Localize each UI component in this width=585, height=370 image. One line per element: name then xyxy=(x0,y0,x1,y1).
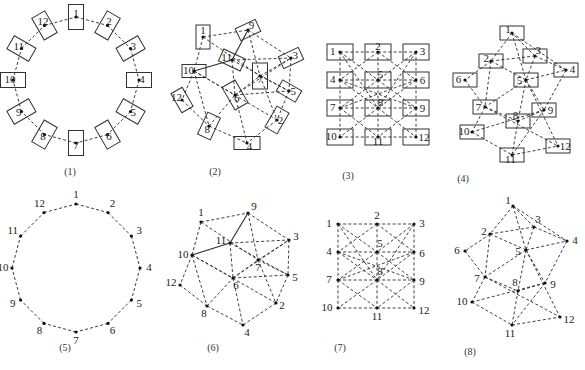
p2-node-label-2: 2 xyxy=(278,114,284,126)
p8-edge-8-11 xyxy=(512,291,518,325)
p3-node-label-9: 9 xyxy=(420,102,426,114)
p2-node-label-8: 8 xyxy=(204,123,210,135)
p4-node-label-5: 5 xyxy=(517,74,523,86)
p8-node-label-1: 1 xyxy=(505,194,511,206)
p8-node-label-11: 11 xyxy=(505,327,516,339)
p1-node-label-1: 1 xyxy=(73,7,79,19)
p7-node-label-2: 2 xyxy=(374,209,380,221)
p1-node-label-5: 5 xyxy=(130,106,136,118)
p8-node-label-5: 5 xyxy=(515,245,521,257)
p1-node-label-8: 8 xyxy=(40,130,46,142)
p5-node-label-8: 8 xyxy=(37,324,43,336)
p7-node-dot-2 xyxy=(375,222,378,225)
p7-node-label-6: 6 xyxy=(419,247,425,259)
p2-node-label-4: 4 xyxy=(247,140,253,152)
p6-edge-7-5 xyxy=(258,260,288,275)
p7-node-dot-12 xyxy=(412,306,415,309)
p8-edge-3-5 xyxy=(526,227,534,250)
p5-node-label-3: 3 xyxy=(136,224,142,236)
p8-node-label-10: 10 xyxy=(457,295,469,307)
p6-edge-11-3 xyxy=(230,240,289,243)
p7-node-label-10: 10 xyxy=(322,301,334,313)
p5-node-dot-2 xyxy=(106,211,109,214)
p4-node-dot-7 xyxy=(483,105,486,108)
p5-node-dot-11 xyxy=(19,234,22,237)
p3-node-dot-3 xyxy=(414,50,417,53)
p8-node-dot-12 xyxy=(558,315,561,318)
p6-node-label-1: 1 xyxy=(198,206,204,218)
p7-node-label-5: 5 xyxy=(377,237,383,249)
p3-node-label-11: 11 xyxy=(373,135,384,147)
p1-node-label-12: 12 xyxy=(38,15,49,27)
p5-edge-7-8 xyxy=(44,323,76,332)
p4-node-label-6: 6 xyxy=(456,73,462,85)
p1-node-label-6: 6 xyxy=(106,130,112,142)
p6-node-dot-12 xyxy=(178,283,181,286)
panel-label-p2: (2) xyxy=(209,166,221,178)
p5-node-dot-5 xyxy=(130,298,133,301)
p3-node-label-1: 1 xyxy=(330,45,336,57)
p6-edge-6-7 xyxy=(233,260,258,278)
p6-edge-7-3 xyxy=(258,240,289,260)
p6-edge-9-7 xyxy=(248,213,258,260)
p8-node-dot-7 xyxy=(483,275,486,278)
p8-edge-3-4 xyxy=(534,227,567,241)
p8-node-dot-8 xyxy=(516,289,519,292)
p7-node-label-12: 12 xyxy=(419,304,430,316)
p1-node-label-11: 11 xyxy=(14,40,25,52)
p2-node-label-9: 9 xyxy=(249,19,255,31)
p6-node-dot-5 xyxy=(286,273,289,276)
p4-node-label-12: 12 xyxy=(560,140,571,152)
p4-node-dot-2 xyxy=(489,59,492,62)
p5-node-label-9: 9 xyxy=(10,297,16,309)
p3-node-dot-7 xyxy=(338,106,341,109)
panel-label-p1: (1) xyxy=(64,166,76,178)
p6-edge-8-4 xyxy=(207,306,243,325)
p5-edge-11-12 xyxy=(21,213,44,236)
p6-node-label-6: 6 xyxy=(233,279,239,291)
panel-label-p6: (6) xyxy=(207,342,219,354)
p8-edge-5-4 xyxy=(526,241,567,250)
p4-node-label-7: 7 xyxy=(476,101,482,113)
p2-node-label-6: 6 xyxy=(234,92,240,104)
p4-node-label-9: 9 xyxy=(548,104,554,116)
p5-edge-1-2 xyxy=(76,204,108,213)
p3-node-label-6: 6 xyxy=(420,74,426,86)
p5-edge-3-4 xyxy=(131,236,140,268)
p4-node-label-8: 8 xyxy=(513,109,519,121)
p4-node-dot-4 xyxy=(564,68,567,71)
p8-node-label-12: 12 xyxy=(564,313,575,325)
p5-edge-2-3 xyxy=(108,213,131,236)
p5-node-label-7: 7 xyxy=(73,334,79,346)
p7-node-label-1: 1 xyxy=(326,217,332,229)
panel-label-p7: (7) xyxy=(334,342,346,354)
p6-node-label-2: 2 xyxy=(279,299,285,311)
p4-node-dot-6 xyxy=(463,78,466,81)
p8-node-dot-6 xyxy=(463,249,466,252)
p7-node-dot-10 xyxy=(336,306,339,309)
p3-node-label-7: 7 xyxy=(330,101,336,113)
p6-edge-11-6 xyxy=(230,243,233,278)
p6-node-dot-1 xyxy=(199,220,202,223)
p5-edge-5-6 xyxy=(108,300,131,323)
p3-node-dot-10 xyxy=(338,135,341,138)
p6-node-dot-9 xyxy=(246,211,249,214)
p8-node-label-6: 6 xyxy=(454,244,460,256)
p3-node-dot-4 xyxy=(338,78,341,81)
p5-node-label-10: 10 xyxy=(0,261,9,273)
p8-edge-9-10 xyxy=(472,283,545,302)
p1-node-label-10: 10 xyxy=(5,73,17,85)
p1-node-label-7: 7 xyxy=(73,139,79,151)
p7-node-dot-4 xyxy=(336,250,339,253)
p3-node-dot-9 xyxy=(414,106,417,109)
p6-node-label-9: 9 xyxy=(251,200,257,212)
p5-node-label-5: 5 xyxy=(136,297,142,309)
p5-node-label-4: 4 xyxy=(146,261,152,273)
p7-node-dot-1 xyxy=(336,222,339,225)
p8-node-label-7: 7 xyxy=(474,272,480,284)
p8-node-dot-10 xyxy=(470,300,473,303)
diagram-figure: 1122334455667788991010111112121122334455… xyxy=(0,0,585,370)
p5-node-label-12: 12 xyxy=(34,197,45,209)
p5-node-dot-3 xyxy=(130,234,133,237)
p3-node-label-10: 10 xyxy=(326,130,338,142)
